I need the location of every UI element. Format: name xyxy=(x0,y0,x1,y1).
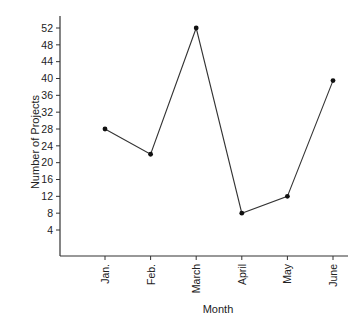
x-tick-label: March xyxy=(190,264,202,293)
y-tick-label: 48 xyxy=(41,39,53,51)
line-chart: 481216202428323640444852 Jan.Feb.MarchAp… xyxy=(0,0,360,332)
y-tick-label: 8 xyxy=(47,207,53,219)
x-tick-label: Feb. xyxy=(145,264,157,285)
y-tick-label: 24 xyxy=(41,140,53,152)
x-axis-label: Month xyxy=(203,303,234,315)
data-point-marker xyxy=(331,78,336,83)
y-tick-label: 4 xyxy=(47,224,53,236)
data-point-marker xyxy=(285,194,290,199)
data-point-marker xyxy=(103,127,108,132)
y-tick-label: 36 xyxy=(41,89,53,101)
x-tick-label: Jan. xyxy=(99,264,111,284)
y-tick-label: 52 xyxy=(41,22,53,34)
y-tick-label: 44 xyxy=(41,55,53,67)
y-tick-label: 32 xyxy=(41,106,53,118)
data-point-marker xyxy=(239,211,244,216)
y-tick-label: 12 xyxy=(41,190,53,202)
series-line xyxy=(105,28,333,213)
x-tick-label: June xyxy=(327,264,339,287)
data-series xyxy=(103,26,336,216)
x-tick-label: April xyxy=(236,264,248,285)
x-axis: Jan.Feb.MarchAprilMayJune xyxy=(60,256,348,293)
y-tick-label: 16 xyxy=(41,173,53,185)
y-tick-label: 20 xyxy=(41,156,53,168)
y-tick-label: 28 xyxy=(41,123,53,135)
x-tick-label: May xyxy=(281,263,293,284)
y-axis: 481216202428323640444852 xyxy=(41,16,60,256)
y-tick-label: 40 xyxy=(41,72,53,84)
data-point-marker xyxy=(148,152,153,157)
y-axis-label: Number of Projects xyxy=(29,94,41,189)
data-point-marker xyxy=(194,26,199,31)
